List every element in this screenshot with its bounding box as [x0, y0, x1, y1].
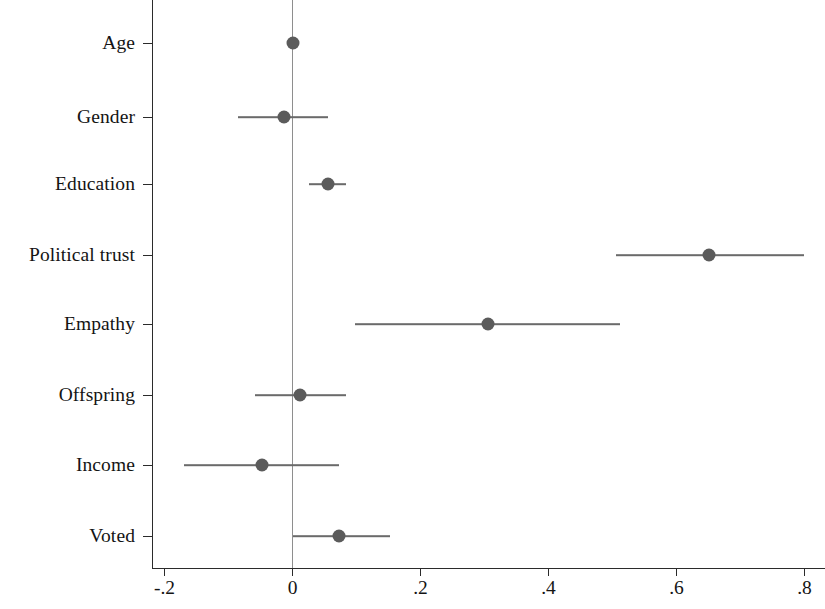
x-axis-label-1: 0 — [288, 578, 298, 598]
x-axis-label-0: -.2 — [154, 578, 175, 598]
x-axis-label-4: .6 — [669, 578, 684, 598]
x-axis-label-2: .2 — [413, 578, 428, 598]
x-axis-label-5: .8 — [797, 578, 812, 598]
x-axis-tick — [548, 568, 549, 576]
x-axis-label-3: .4 — [541, 578, 556, 598]
x-axis-tick — [164, 568, 165, 576]
x-axis-ticks: -.20.2.4.6.8 — [0, 0, 825, 609]
x-axis-tick — [292, 568, 293, 576]
x-axis-tick — [420, 568, 421, 576]
x-axis-tick — [676, 568, 677, 576]
x-axis-tick — [804, 568, 805, 576]
coefficient-plot-figure: AgeGenderEducationPolitical trustEmpathy… — [0, 0, 825, 609]
